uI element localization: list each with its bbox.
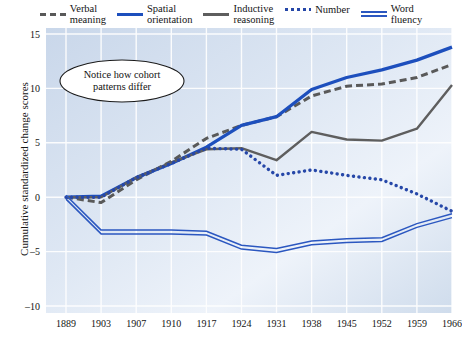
y-tick-labels: 151050–5–10 [24,29,40,312]
x-tick-label: 1910 [161,318,181,329]
y-tick-label: 15 [30,29,40,40]
x-tick-labels: 1889190319071910191719241931193819451952… [56,318,462,329]
legend-label: Word fluency [391,3,423,25]
legend-item-verbal-meaning: Verbal meaning [40,3,106,25]
y-tick-label: –5 [29,246,40,257]
x-tick-label: 1938 [302,318,322,329]
y-tick-label: –10 [24,301,40,312]
x-tick-label: 1952 [372,318,392,329]
legend-item-inductive-reasoning: Inductive reasoning [203,3,274,25]
legend-swatch-solid-gray-icon [203,8,229,20]
legend-swatch-double-line-icon [361,8,387,20]
x-tick-label: 1903 [91,318,111,329]
legend-item-spatial-orientation: Spatial orientation [117,3,193,25]
x-tick-label: 1889 [56,318,76,329]
annotation-callout: Notice how cohort patterns differ [60,60,184,102]
x-tick-label: 1917 [196,318,216,329]
legend-swatch-solid-blue-icon [117,8,143,20]
x-tick-label: 1966 [442,318,462,329]
legend-swatch-dotted-icon [285,3,311,15]
x-tick-label: 1907 [126,318,146,329]
legend-label: Verbal meaning [70,3,106,25]
chart-figure: Verbal meaning Spatial orientation Induc… [0,0,462,341]
legend-item-number: Number [285,3,349,15]
x-tick-label: 1945 [337,318,357,329]
y-tick-label: 0 [35,192,40,203]
chart-legend: Verbal meaning Spatial orientation Induc… [0,0,462,30]
chart-svg: 151050–5–10 1889190319071910191719241931… [0,28,462,341]
legend-item-word-fluency: Word fluency [361,3,423,25]
legend-swatch-dashed-icon [40,8,66,20]
legend-label: Inductive reasoning [233,3,274,25]
x-tick-label: 1931 [267,318,287,329]
legend-label: Spatial orientation [147,3,193,25]
y-tick-label: 5 [35,137,40,148]
annotation-line-1: Notice how cohort [84,69,161,80]
y-tick-label: 10 [30,83,40,94]
x-tick-label: 1959 [407,318,427,329]
plot-area: 151050–5–10 1889190319071910191719241931… [0,28,462,341]
annotation-line-2: patterns differ [93,81,151,92]
legend-label: Number [315,4,349,15]
x-tick-label: 1924 [232,318,252,329]
